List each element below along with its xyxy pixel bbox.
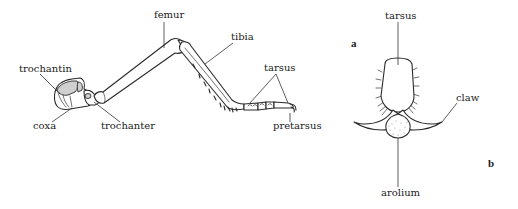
femur-label: femur: [154, 10, 184, 20]
insect-leg-figure: femur tibia trochantin coxa trochanter t…: [0, 0, 518, 209]
tarsus-b-label: tarsus: [385, 11, 416, 21]
trochanter-leader-line: [94, 102, 120, 122]
coxa-label: coxa: [33, 121, 56, 131]
arolium-label: arolium: [381, 188, 420, 198]
trochanter-label: trochanter: [101, 121, 155, 131]
claw-leader-line: [442, 103, 457, 122]
femur-shape: [94, 38, 186, 103]
tarsus-label: tarsus: [264, 63, 295, 73]
panel-a-drawing: [54, 38, 296, 112]
tarsal-segment-shape: [381, 58, 414, 112]
panel-b-drawing: [354, 58, 442, 138]
panel-b-letter: b: [488, 158, 494, 169]
tibia-shape: [180, 42, 244, 112]
trochantin-label: trochantin: [19, 64, 72, 74]
panel-a-letter: a: [351, 38, 357, 49]
tarsus-leader-line-2: [276, 74, 288, 103]
pretarsus-label: pretarsus: [273, 121, 322, 131]
leg-drawing: [0, 0, 518, 209]
trochantin-leader-line: [40, 74, 60, 94]
tibia-leader-line: [205, 43, 233, 64]
tibia-label: tibia: [231, 32, 254, 42]
claw-label: claw: [456, 93, 479, 103]
tarsus-shape: [244, 102, 293, 110]
tarsus-leader-line-1: [250, 74, 276, 103]
